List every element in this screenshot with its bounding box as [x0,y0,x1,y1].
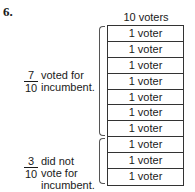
voter-row: 1 voter [108,42,183,58]
voter-row: 1 voter [108,26,183,42]
label-line: voted for [41,69,95,81]
brace-not-voted [99,138,105,184]
voter-row: 1 voter [108,74,183,90]
numerator: 3 [24,155,38,168]
table-header: 10 voters [107,11,185,23]
label-line: did not [41,155,95,167]
fraction-voted: 7 10 [24,69,38,94]
label-line: vote for [41,167,95,179]
voter-row: 1 voter [108,58,183,74]
denominator: 10 [25,82,37,94]
voter-row: 1 voter [108,153,183,169]
voter-row: 1 voter [108,121,183,137]
voter-row: 1 voter [108,90,183,106]
voter-row: 1 voter [108,137,183,153]
label-voted: voted for incumbent. [41,69,95,93]
numerator: 7 [24,69,38,82]
voter-table: 1 voter 1 voter 1 voter 1 voter 1 voter … [107,25,184,186]
denominator: 10 [25,168,37,180]
voter-row: 1 voter [108,105,183,121]
voter-row: 1 voter [108,169,183,185]
problem-number: 6. [3,4,13,20]
label-line: incumbent. [41,179,95,191]
label-not-voted: did not vote for incumbent. [41,155,95,191]
fraction-not-voted: 3 10 [24,155,38,180]
brace-voted [99,26,105,136]
label-line: incumbent. [41,81,95,93]
